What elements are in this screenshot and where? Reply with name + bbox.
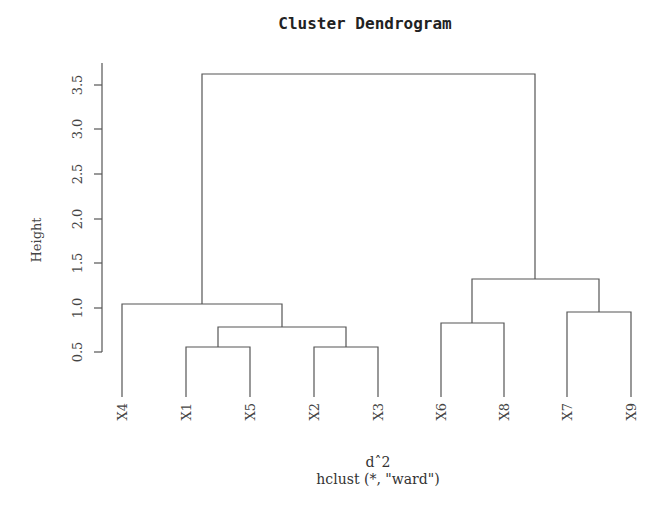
merge-x7-x9 xyxy=(567,312,631,397)
y-axis: 0.5 1.0 1.5 2.0 2.5 3.0 3.5 Height xyxy=(29,63,102,362)
leaf-label-x7: X7 xyxy=(560,403,575,421)
merge-x2-x3 xyxy=(314,347,378,397)
y-tick-label: 3.0 xyxy=(70,119,85,140)
merge-root xyxy=(202,74,535,304)
y-tick-label: 1.5 xyxy=(70,253,85,274)
dendrogram-tree xyxy=(122,74,631,397)
chart-title: Cluster Dendrogram xyxy=(278,14,452,33)
y-tick-label: 2.0 xyxy=(70,209,85,230)
merge-x1x5-x2x3 xyxy=(218,327,346,347)
merge-x6-x8 xyxy=(441,323,504,397)
dendrogram-plot: Cluster Dendrogram 0.5 1.0 1.5 2.0 2.5 3… xyxy=(0,0,662,512)
x-axis-label: dˆ2 xyxy=(366,454,391,470)
y-tick-label: 3.5 xyxy=(70,75,85,96)
leaf-label-x6: X6 xyxy=(434,403,449,421)
y-tick-label: 2.5 xyxy=(70,164,85,185)
leaf-labels: X4 X1 X5 X2 X3 X6 X8 X7 X9 xyxy=(115,403,639,421)
leaf-label-x4: X4 xyxy=(115,403,130,421)
leaf-label-x9: X9 xyxy=(624,403,639,421)
merge-x1-x5 xyxy=(186,347,250,397)
merge-right-cluster xyxy=(472,279,599,323)
leaf-label-x3: X3 xyxy=(371,403,386,421)
leaf-label-x5: X5 xyxy=(243,403,258,421)
y-axis-label: Height xyxy=(29,217,44,263)
leaf-label-x1: X1 xyxy=(179,403,194,421)
merge-x4-left xyxy=(122,304,282,397)
y-tick-label: 1.0 xyxy=(70,298,85,319)
chart-subtitle: hclust (*, "ward") xyxy=(316,471,439,487)
leaf-label-x8: X8 xyxy=(497,403,512,421)
leaf-label-x2: X2 xyxy=(307,403,322,421)
y-tick-label: 0.5 xyxy=(70,342,85,363)
